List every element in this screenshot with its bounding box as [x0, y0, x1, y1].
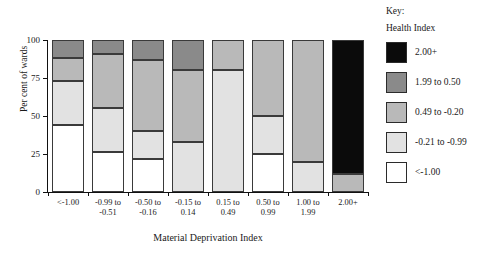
y-tick-label: 0 — [0, 187, 40, 197]
bar-segment — [132, 40, 164, 60]
legend-item: 0.49 to -0.20 — [386, 99, 490, 125]
bar-segment — [292, 162, 324, 192]
legend-swatch — [386, 132, 407, 153]
bar-1 — [52, 40, 84, 192]
legend-swatch — [386, 102, 407, 123]
bar-segment — [132, 60, 164, 131]
legend-item: 1.99 to 0.50 — [386, 69, 490, 95]
plot-area — [48, 40, 368, 192]
bar-segment — [92, 152, 124, 192]
bar-3 — [132, 40, 164, 192]
legend-items: 2.00+1.99 to 0.500.49 to -0.20-0.21 to -… — [386, 39, 490, 185]
bar-segment — [52, 125, 84, 192]
bar-segment — [172, 40, 204, 70]
bar-6 — [252, 40, 284, 192]
bar-segment — [132, 159, 164, 192]
x-tick-label: 2.00+ — [321, 198, 375, 208]
bar-segment — [252, 116, 284, 154]
legend-swatch — [386, 42, 407, 63]
bar-segment — [212, 70, 244, 192]
bar-segment — [92, 108, 124, 152]
legend-item: 2.00+ — [386, 39, 490, 65]
bar-5 — [212, 40, 244, 192]
bar-segment — [52, 40, 84, 58]
bar-segment — [132, 131, 164, 158]
bar-segment — [212, 40, 244, 70]
bar-segment — [332, 174, 364, 192]
x-tick-mark — [208, 192, 209, 196]
legend-label: 0.49 to -0.20 — [415, 107, 464, 117]
bar-segment — [172, 70, 204, 141]
x-tick-mark — [368, 192, 369, 196]
bar-8 — [332, 40, 364, 192]
y-tick-label: 50 — [0, 111, 40, 121]
bar-segment — [172, 142, 204, 192]
x-tick-mark — [88, 192, 89, 196]
bar-segment — [52, 81, 84, 125]
legend: Key: Health Index 2.00+1.99 to 0.500.49 … — [386, 6, 490, 189]
x-tick-mark — [288, 192, 289, 196]
legend-label: 1.99 to 0.50 — [415, 77, 460, 87]
y-tick-label: 75 — [0, 73, 40, 83]
bar-4 — [172, 40, 204, 192]
x-axis-title: Material Deprivation Index — [48, 232, 368, 243]
bar-segment — [52, 58, 84, 81]
legend-title-health-index: Health Index — [386, 23, 490, 33]
legend-label: <-1.00 — [415, 167, 440, 177]
bar-segment — [292, 40, 324, 162]
y-tick-label: 25 — [0, 149, 40, 159]
x-tick-mark — [248, 192, 249, 196]
legend-label: 2.00+ — [415, 47, 437, 57]
x-tick-mark — [48, 192, 49, 196]
x-tick-mark — [128, 192, 129, 196]
bar-segment — [92, 54, 124, 109]
x-tick-mark — [328, 192, 329, 196]
legend-swatch — [386, 162, 407, 183]
bar-2 — [92, 40, 124, 192]
bar-segment — [92, 40, 124, 54]
legend-swatch — [386, 72, 407, 93]
bar-7 — [292, 40, 324, 192]
chart-figure: Per cent of wards 0255075100 <-1.00-0.99… — [0, 0, 492, 255]
bar-segment — [252, 154, 284, 192]
legend-item: <-1.00 — [386, 159, 490, 185]
legend-item: -0.21 to -0.99 — [386, 129, 490, 155]
bar-segment — [252, 40, 284, 116]
legend-title-key: Key: — [386, 6, 490, 16]
y-tick-label: 100 — [0, 35, 40, 45]
x-tick-mark — [168, 192, 169, 196]
legend-label: -0.21 to -0.99 — [415, 137, 467, 147]
bar-segment — [332, 40, 364, 174]
